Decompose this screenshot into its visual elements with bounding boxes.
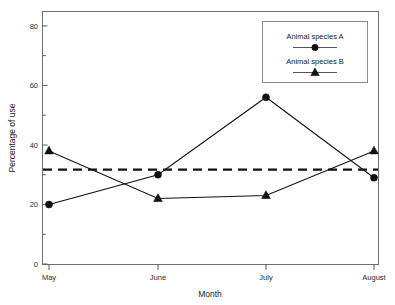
circle-marker-icon <box>312 44 318 50</box>
y-tick-label-60: 60 <box>30 81 38 90</box>
series-b-point-august <box>370 146 379 154</box>
legend-label-a: Animal species A <box>286 32 343 41</box>
series-b-point-may <box>45 146 54 154</box>
y-axis: 0 20 40 60 80 Percentage of use <box>7 22 48 269</box>
legend-label-b: Animal species B <box>286 57 344 66</box>
y-tick-label-80: 80 <box>30 22 38 31</box>
y-tick-label-0: 0 <box>34 260 38 269</box>
x-tick-label-july: July <box>259 273 273 282</box>
series-animal-species-a <box>46 94 378 208</box>
y-tick-label-40: 40 <box>30 141 38 150</box>
x-tick-label-june: June <box>150 273 166 282</box>
chart-container: 0 20 40 60 80 Percentage of use May June… <box>0 0 395 305</box>
x-tick-label-august: August <box>362 273 386 282</box>
line-chart: 0 20 40 60 80 Percentage of use May June… <box>0 0 395 305</box>
x-axis-title: Month <box>198 289 222 299</box>
x-tick-label-may: May <box>42 273 56 282</box>
series-a-point-july <box>263 94 270 101</box>
series-animal-species-b <box>45 146 379 201</box>
series-a-point-june <box>155 171 162 178</box>
chart-legend: Animal species A Animal species B <box>263 22 368 83</box>
series-a-point-may <box>46 201 53 208</box>
y-axis-title: Percentage of use <box>7 103 17 172</box>
x-axis: May June July August Month <box>42 265 387 300</box>
y-tick-label-20: 20 <box>30 200 38 209</box>
series-a-line <box>49 97 374 204</box>
series-a-point-august <box>371 174 378 181</box>
